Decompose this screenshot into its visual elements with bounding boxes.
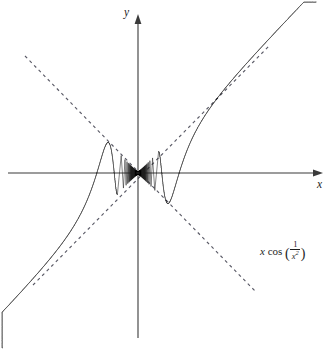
function-curve-group [2,2,316,348]
function-label-operator: cos [268,245,283,257]
function-label-close-paren: ) [301,246,306,261]
x-axis-arrow-icon [313,170,323,177]
oscillation-stroke [121,156,123,188]
envelope-line-positive [33,46,269,285]
function-label: x cos (1x2) [260,240,305,261]
function-label-denominator-exponent: 2 [296,249,299,256]
function-label-open-paren: ( [285,246,290,261]
oscillation-stroke [151,158,153,187]
oscillation-stroke [150,161,151,187]
oscillation-stroke [123,160,125,189]
oscillation-stroke [155,152,159,191]
x-axis-label: x [317,179,322,191]
function-label-denominator: x2 [290,250,300,261]
function-label-fraction: 1x2 [290,240,300,261]
plot-canvas [0,0,331,350]
oscillation-stroke [125,160,126,186]
function-curve [2,2,316,348]
figure-container: y x x cos (1x2) [0,0,331,350]
y-axis-label: y [124,7,129,19]
oscillation-stroke [117,156,121,195]
y-axis-arrow-icon [135,14,142,24]
